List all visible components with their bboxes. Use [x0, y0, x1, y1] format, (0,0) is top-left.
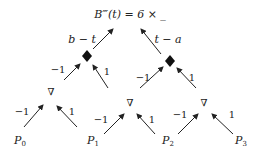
diamond-node-right	[165, 55, 175, 67]
weight-pos: 1	[149, 114, 155, 125]
weight-neg: −1	[15, 106, 30, 117]
weight-neg: −1	[51, 64, 66, 75]
arrow-left-top	[93, 29, 113, 49]
diamond-node-left	[82, 50, 92, 62]
blossom-diagram: B‴(t) = 6 × _ b − t t − a −1 1 −1 1 ∇ ∇ …	[0, 0, 257, 157]
point-p1: P1	[86, 134, 99, 148]
label-b-minus-t: b − t	[68, 33, 96, 46]
weight-pos: 1	[229, 109, 235, 120]
point-p3: P3	[234, 134, 247, 148]
weight-neg: −1	[173, 109, 188, 120]
arrow-l2a	[64, 64, 80, 80]
nabla-node-1: ∇	[127, 97, 134, 108]
weight-pos: 1	[69, 106, 75, 117]
nabla-node-0: ∇	[48, 86, 55, 97]
point-p2: P2	[161, 134, 174, 148]
label-t-minus-a: t − a	[154, 33, 181, 46]
weight-neg: −1	[136, 72, 151, 83]
point-p0: P0	[13, 134, 26, 148]
nabla-node-2: ∇	[201, 97, 208, 108]
weight-pos: 1	[189, 72, 195, 83]
weight-pos: 1	[104, 66, 110, 77]
formula-title: B‴(t) = 6 × _	[93, 8, 166, 21]
weight-neg: −1	[94, 114, 109, 125]
